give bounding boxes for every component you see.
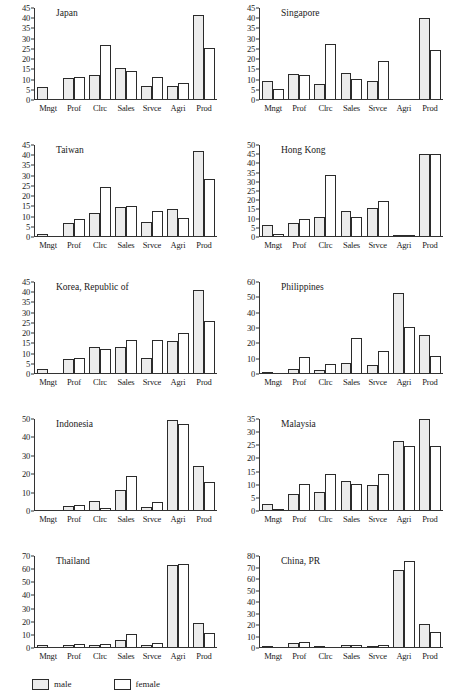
x-axis-line [34,373,217,374]
bar-group [191,145,217,237]
y-axis-tick-label: 60 [22,565,30,574]
x-axis-tick-label: Mngt [260,649,286,664]
x-axis-tick-label: Srvce [139,101,165,116]
chart-panel: Malaysia05101520253035MngtProfClrcSalesS… [225,411,451,548]
x-axis-tick-label: Clrc [87,512,113,527]
x-axis-line [259,236,443,237]
bar-group [286,282,312,374]
plot-area-wrapper: 0102030405060MngtProfClrcSalesSrvceAgriP… [229,282,445,390]
bar-female [178,83,189,100]
bar-group [365,282,391,374]
bar-group [365,556,391,648]
bar-female [351,338,362,374]
bar-group [61,8,87,100]
x-axis-tick-label: Mngt [260,238,286,253]
chart-legend: male female [0,673,225,695]
bar-female [126,634,137,648]
y-axis-tick-label: 0 [251,233,255,242]
bar-group [165,282,191,374]
bar-group [139,282,165,374]
y-axis-tick-label: 15 [247,65,255,74]
x-axis-tick-label: Srvce [139,512,165,527]
bar-group [312,145,338,237]
bar-female [178,424,189,511]
bars-container [260,556,443,648]
bar-male [115,490,126,511]
x-axis-tick-label: Agri [391,101,417,116]
bar-female [204,48,215,100]
bar-female [126,340,137,374]
x-axis-tick-label: Prod [191,101,217,116]
bar-groups [260,145,443,237]
bar-group [87,282,113,374]
legend-item-male: male [32,679,72,690]
y-axis-tick-label: 10 [247,480,255,489]
bar-female [74,219,85,237]
y-axis-tick-label: 30 [247,34,255,43]
x-axis-labels: MngtProfClrcSalesSrvceAgriProd [260,512,443,527]
bar-group [260,282,286,374]
bar-male [193,466,204,511]
y-axis-tick-label: 50 [247,293,255,302]
x-axis-tick-label: Mngt [35,512,61,527]
bar-male [314,84,325,100]
bar-group [113,8,139,100]
y-axis: 0102030405060 [229,282,259,374]
x-axis-tick-label: Clrc [87,238,113,253]
bar-female [325,175,336,237]
bar-female [378,201,389,237]
x-axis-line [259,647,443,648]
bar-female [351,79,362,100]
bar-group [417,282,443,374]
bar-group [35,145,61,237]
bar-male [419,335,430,374]
chart-panel: Hong Kong05101520253035404550MngtProfClr… [225,137,451,274]
y-axis-tick-label: 10 [247,354,255,363]
plot-area-wrapper: 010203040506070MngtProfClrcSalesSrvceAgr… [4,556,219,664]
y-axis-tick-label: 15 [22,202,30,211]
x-axis-tick-label: Srvce [365,375,391,390]
bar-group [35,419,61,511]
y-axis-tick-label: 40 [247,308,255,317]
bar-group [61,282,87,374]
bar-group [113,419,139,511]
bars-container [260,8,443,100]
small-multiples-grid: Japan051015202530354045MngtProfClrcSales… [0,0,451,699]
bar-group [260,419,286,511]
y-axis-tick-label: 40 [22,591,30,600]
bar-group [312,556,338,648]
y-axis-tick-label: 35 [247,168,255,177]
bar-female [325,474,336,511]
bars-container [35,8,217,100]
bar-male [341,481,352,511]
bar-group [286,556,312,648]
bar-female [100,349,111,374]
y-axis-tick-label: 70 [22,552,30,561]
bar-groups [260,556,443,648]
plot-area-wrapper: 051015202530354045MngtProfClrcSalesSrvce… [4,145,219,253]
y-axis-tick-label: 30 [247,428,255,437]
bar-male [367,81,378,100]
y-axis-tick-label: 30 [22,604,30,613]
y-axis-tick-label: 10 [22,349,30,358]
y-axis-tick-label: 5 [26,360,30,369]
y-axis-tick-label: 20 [22,470,30,479]
y-axis-tick-label: 10 [247,632,255,641]
y-axis-tick-label: 25 [22,319,30,328]
y-axis-tick-label: 30 [22,34,30,43]
bar-female [152,340,163,374]
bar-female [204,321,215,374]
y-axis: 010203040506070 [4,556,34,648]
x-axis-tick-label: Prof [286,512,312,527]
x-axis-tick-label: Prod [191,649,217,664]
y-axis-tick-label: 35 [22,161,30,170]
bar-male [115,68,126,100]
plot-area-wrapper: 051015202530354045MngtProfClrcSalesSrvce… [4,8,219,116]
y-axis-tick-label: 5 [26,86,30,95]
bar-group [165,8,191,100]
bar-group [87,8,113,100]
y-axis-tick-label: 15 [247,205,255,214]
y-axis-tick-label: 15 [247,467,255,476]
x-axis-tick-label: Prof [61,512,87,527]
x-axis-tick-label: Sales [338,238,364,253]
